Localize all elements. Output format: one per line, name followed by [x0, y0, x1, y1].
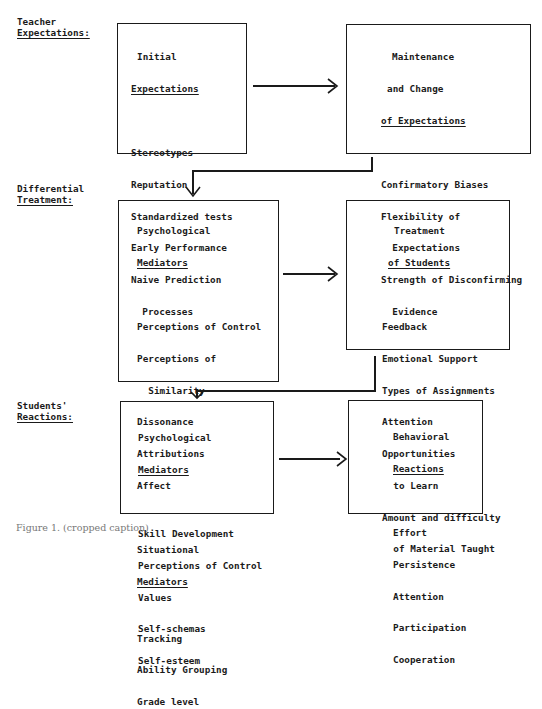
- list-item: Persistence: [393, 560, 466, 571]
- arrow-down-icon: [190, 391, 204, 400]
- box-title-line2: Expectations: [131, 84, 233, 95]
- list-item: Types of Assignments: [382, 386, 501, 397]
- list-item: Skill Development: [138, 529, 262, 540]
- row-label-line2: Expectations:: [17, 27, 90, 38]
- row-label-line1: Teacher: [17, 16, 90, 27]
- list-item: Self-schemas: [138, 624, 262, 635]
- box-title-line2: of Students: [382, 258, 501, 269]
- list-item: Attention: [393, 592, 466, 603]
- box-title-line1: Initial: [131, 52, 233, 63]
- list-item: Reputation: [131, 180, 233, 191]
- figure-caption: Figure 1. (cropped caption): [16, 522, 149, 533]
- row-label-students-reactions: Students' Reactions:: [17, 400, 73, 422]
- row-label-line2: Reactions:: [17, 411, 73, 422]
- box-title-line1: Psychological: [138, 433, 262, 444]
- connector-line: [196, 390, 376, 392]
- box-title-line3: of Expectations: [381, 116, 522, 127]
- connector-line: [192, 170, 373, 172]
- list-item: Cooperation: [393, 655, 466, 666]
- box-title-line1: Maintenance: [381, 52, 522, 63]
- box-title-line1: Psychological: [137, 226, 261, 237]
- list-item: Confirmatory Biases: [381, 180, 522, 191]
- arrow-right-icon: [327, 78, 339, 94]
- list-item: Perceptions of Control: [137, 322, 261, 333]
- behavioral-reactions-content: Behavioral Reactions Effort Persistence …: [393, 411, 466, 676]
- connector-line: [371, 157, 373, 171]
- row-label-line1: Students': [17, 400, 73, 411]
- row-label-differential-treatment: Differential Treatment:: [17, 183, 84, 205]
- list-item: Grade level: [137, 697, 261, 708]
- box-title-line2: Mediators: [138, 465, 262, 476]
- list-item: Self-esteem: [138, 656, 262, 667]
- connector-line: [374, 356, 376, 391]
- list-item: Perceptions of Control: [138, 561, 262, 572]
- arrow-down-icon: [185, 186, 201, 198]
- box-title-line1: Behavioral: [393, 432, 466, 443]
- box-title-line2: and Change: [381, 84, 522, 95]
- list-item: Feedback: [382, 322, 501, 333]
- row-label-line1: Differential: [17, 183, 84, 194]
- list-item: Emotional Support: [382, 354, 501, 365]
- box-title-line2: Reactions: [393, 464, 466, 475]
- row-label-teacher-expectations: Teacher Expectations:: [17, 16, 90, 38]
- list-item: Effort: [393, 528, 466, 539]
- connector-line: [279, 458, 340, 460]
- list-item: Stereotypes: [131, 148, 233, 159]
- box-title-line1: Treatment: [382, 226, 501, 237]
- psych-mediators-students-content: Psychological Mediators Skill Developmen…: [138, 412, 262, 677]
- box-title-line2: Mediators: [137, 258, 261, 269]
- row-label-line2: Treatment:: [17, 194, 84, 205]
- list-item: Participation: [393, 623, 466, 634]
- list-item: Perceptions of: [137, 354, 261, 365]
- arrow-right-icon: [336, 451, 348, 467]
- connector-line: [253, 85, 335, 87]
- arrow-right-icon: [327, 266, 339, 282]
- list-item: Values: [138, 593, 262, 604]
